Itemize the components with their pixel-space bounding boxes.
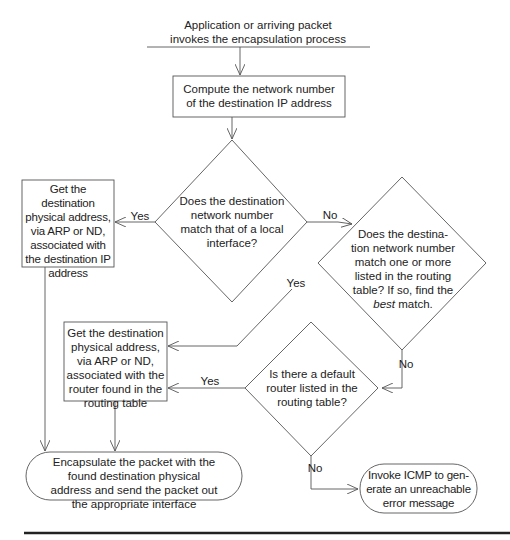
decision-local-line: match that of a local [172,222,292,236]
get-router-line: routing table [64,396,167,410]
edge-local-no [307,222,352,224]
icmp-line: erate an unreachable [360,482,477,496]
get-router-line: Get the destination [64,326,167,340]
encapsulate-line: the appropriate interface [26,497,242,511]
no-label-local: No [318,208,342,222]
compute-text: Compute the network number of the destin… [173,82,345,110]
get-local-line: the destination IP [22,252,114,266]
decision-routing-text: Does the destina- tion network number ma… [350,227,456,311]
best-emphasis: best [373,298,395,310]
start-label: Application or arriving packet invokes t… [140,18,376,46]
encapsulate-text: Encapsulate the packet with the found de… [26,455,242,511]
decision-routing-line: listed in the routing [350,269,456,283]
start-label-line: Application or arriving packet [140,18,376,32]
decision-default-text: Is there a default router listed in the … [258,367,366,409]
decision-routing-line: match one or more [350,255,456,269]
decision-routing-line: tion network number [350,241,456,255]
compute-text-line: Compute the network number [173,82,345,96]
get-local-line: physical address, [22,210,114,224]
yes-label-local: Yes [128,209,152,223]
encapsulate-line: address and send the packet out [26,483,242,497]
decision-default-line: Is there a default [258,367,366,381]
decision-default-line: router listed in the [258,381,366,395]
get-router-line: via ARP or ND, [64,354,167,368]
yes-label-default: Yes [198,374,222,388]
decision-local-line: network number [172,208,292,222]
icmp-line: Invoke ICMP to gen- [360,468,477,482]
icmp-line: error message [360,496,477,510]
get-local-line: via ARP or ND, [22,224,114,238]
get-router-line: physical address, [64,340,167,354]
get-local-line: associated with [22,238,114,252]
get-local-text: Get the destination physical address, vi… [22,182,114,280]
decision-routing-line: Does the destina- [350,227,456,241]
decision-default-line: routing table? [258,395,366,409]
yes-label-routing: Yes [284,276,308,290]
decision-local-line: interface? [172,236,292,250]
get-router-text: Get the destination physical address, vi… [64,326,167,410]
no-label-default: No [305,461,325,475]
start-label-line: invokes the encapsulation process [140,32,376,46]
get-router-line: associated with the [64,368,167,382]
match-text: match. [395,298,433,310]
get-local-line: address [22,266,114,280]
encapsulate-line: Encapsulate the packet with the [26,455,242,469]
compute-text-line: of the destination IP address [173,96,345,110]
get-router-line: router found in the [64,382,167,396]
encapsulate-line: found destination physical [26,469,242,483]
decision-routing-line: table? If so, find the [350,283,456,297]
icmp-text: Invoke ICMP to gen- erate an unreachable… [360,468,477,510]
edge-routing-yes [168,289,292,346]
decision-local-text: Does the destination network number matc… [172,194,292,250]
decision-routing-last-line: best match. [350,297,456,311]
decision-local-line: Does the destination [172,194,292,208]
get-local-line: Get the destination [22,182,114,210]
no-label-routing: No [396,357,416,371]
